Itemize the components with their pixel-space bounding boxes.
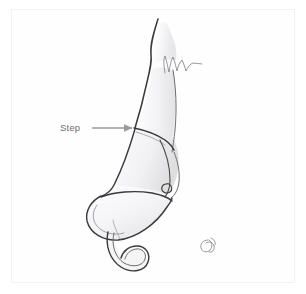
annotation-label-step: Step [60, 122, 80, 133]
anatomical-illustration: Step [0, 0, 306, 294]
alar-lobule-shade [86, 187, 171, 240]
shading-layer [86, 22, 178, 271]
annotation-step[interactable]: Step [60, 122, 132, 133]
figure-root: Step [0, 0, 306, 294]
artist-signature [201, 238, 215, 252]
